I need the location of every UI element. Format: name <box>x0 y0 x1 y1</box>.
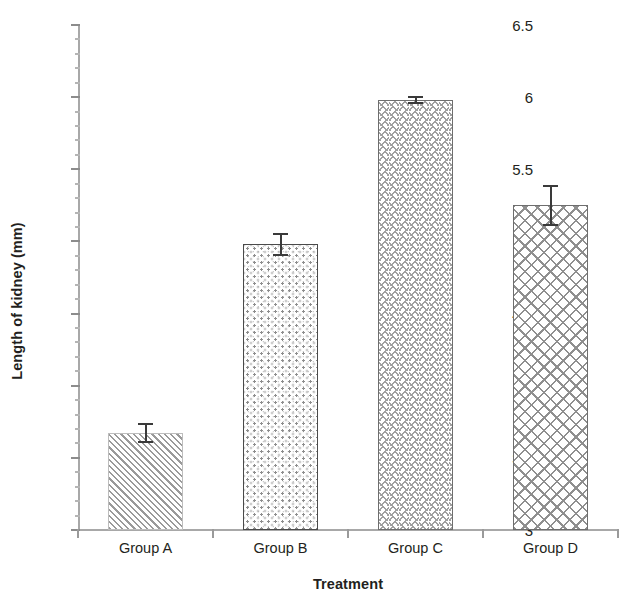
error-bar-stem <box>280 233 282 256</box>
error-bar-cap-bottom <box>273 254 288 256</box>
x-axis-tick <box>77 529 79 538</box>
x-axis-label-group-c: Group C <box>348 540 483 556</box>
x-axis-title: Treatment <box>78 576 618 592</box>
error-bar-group-d <box>541 185 561 225</box>
error-bar-stem <box>550 185 552 225</box>
error-bar-cap-bottom <box>543 224 558 226</box>
x-axis-label-group-a: Group A <box>78 540 213 556</box>
error-bar-group-c <box>406 96 426 105</box>
plot-area <box>78 25 618 530</box>
error-bar-group-a <box>136 423 156 443</box>
error-bar-group-b <box>271 233 291 256</box>
x-axis-label-group-d: Group D <box>483 540 618 556</box>
error-bar-cap-top <box>138 423 153 425</box>
error-bar-cap-top <box>273 233 288 235</box>
bar-group-c[interactable] <box>378 100 453 530</box>
error-bar-cap-top <box>543 185 558 187</box>
bar-group-b[interactable] <box>243 244 318 530</box>
x-axis-tick <box>347 529 349 538</box>
bar-group-d[interactable] <box>513 205 588 530</box>
error-bar-cap-bottom <box>138 441 153 443</box>
x-axis-label-group-b: Group B <box>213 540 348 556</box>
bar-chart: Length of kidney (mm) 33.544.555.566.5 T… <box>0 0 619 602</box>
x-axis-tick <box>482 529 484 538</box>
error-bar-cap-top <box>408 96 423 98</box>
bar-group-a[interactable] <box>108 433 183 530</box>
error-bar-cap-bottom <box>408 102 423 104</box>
x-axis-tick <box>212 529 214 538</box>
error-bar-stem <box>145 423 147 443</box>
